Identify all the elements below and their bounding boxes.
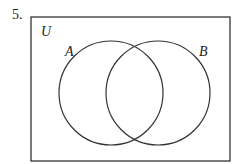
universal-label: U xyxy=(41,24,52,39)
set-b-circle xyxy=(106,41,210,145)
set-b-label: B xyxy=(199,44,208,59)
universal-set-rectangle xyxy=(31,17,230,161)
set-a-label: A xyxy=(64,44,74,59)
set-a-circle xyxy=(59,41,163,145)
venn-diagram: U A B xyxy=(0,0,240,164)
